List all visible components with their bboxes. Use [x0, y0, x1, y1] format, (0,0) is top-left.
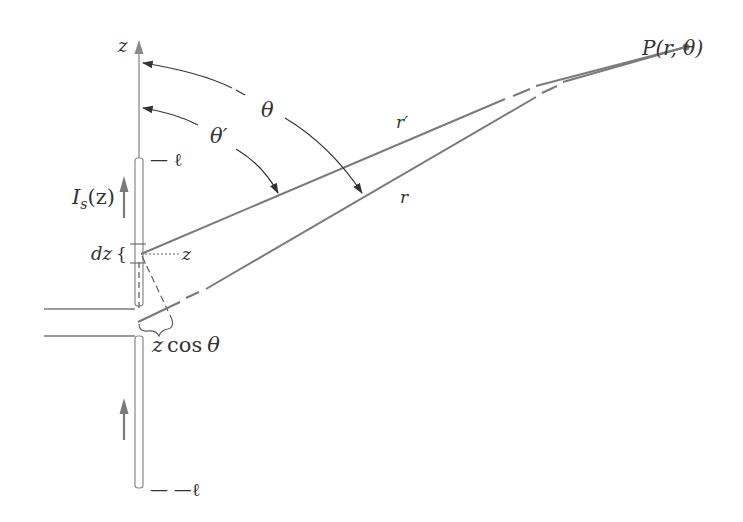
feed-line: [44, 309, 135, 336]
theta-arc-lower: [285, 118, 362, 193]
theta-prime-arc-lower: [236, 149, 278, 193]
current-arrow-upper-icon: [120, 176, 129, 218]
current-label: Is(z): [71, 185, 115, 212]
z-axis-arrow-icon: [135, 40, 144, 54]
z-axis-label: z: [117, 35, 128, 56]
bottom-end-label: — —ℓ: [150, 479, 200, 500]
current-arrow-lower-icon: [120, 398, 129, 440]
dz-label: dz: [91, 243, 113, 264]
theta-arc-upper: [143, 63, 232, 88]
z-marker-label: z: [181, 244, 192, 264]
r-line: [138, 47, 686, 322]
dipole-diagram: z — ℓ — —ℓ Is(z) dz { z: [0, 0, 743, 522]
theta-prime-arc-upper: [143, 108, 198, 125]
z-cos-theta-label: zcosθ: [151, 333, 220, 357]
r-prime-line: [141, 47, 686, 254]
theta-prime-label: θ′: [210, 124, 228, 148]
r-label: r: [400, 187, 409, 207]
lower-dipole-arm: [135, 336, 143, 488]
theta-arc-dash: [236, 90, 245, 95]
point-p-label: P(r, θ): [641, 36, 703, 60]
z-axis: [135, 40, 144, 158]
dz-brace: {: [116, 244, 127, 264]
r-prime-label: r′: [396, 112, 408, 132]
theta-label: θ: [261, 98, 274, 122]
top-end-label: — ℓ: [150, 149, 182, 170]
